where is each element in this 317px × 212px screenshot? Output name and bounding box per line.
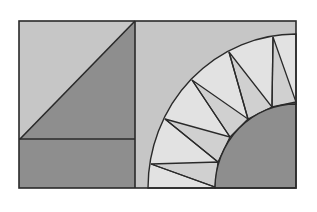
quilt-diagram <box>0 0 317 212</box>
dark-bottom-strip <box>19 139 135 188</box>
right-panel <box>135 21 296 188</box>
left-panel <box>19 21 135 188</box>
